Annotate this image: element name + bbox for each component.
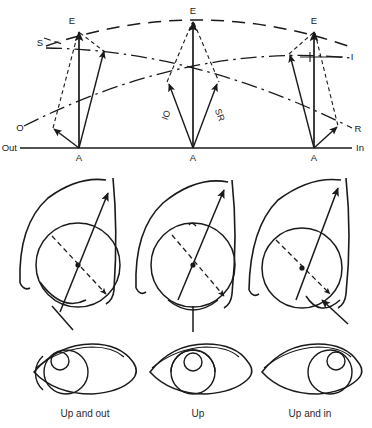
globe-up <box>136 180 235 332</box>
io-component-vector <box>54 129 79 148</box>
adduction-group: E I R A <box>289 15 362 163</box>
globe-up-and-out <box>20 178 120 330</box>
label-S: S <box>37 37 43 48</box>
eye-muscle-action-figure: E S O A E IO SR A <box>0 0 372 428</box>
pupil-left <box>51 352 69 370</box>
orbit-apex-mid <box>136 288 146 293</box>
abduction-group: E S O A <box>16 15 105 163</box>
label-E-right: E <box>311 15 317 26</box>
label-A-left: A <box>76 152 83 163</box>
orbit-apex-left <box>20 283 30 289</box>
label-E-left: E <box>69 15 75 26</box>
label-In: In <box>356 142 364 153</box>
visual-axis-dashed-right <box>276 240 330 294</box>
label-R: R <box>355 123 362 134</box>
label-E-mid: E <box>190 5 196 16</box>
caption-up-and-in: Up and in <box>289 408 332 419</box>
muscle-action-arrow-mid <box>178 190 224 300</box>
sr-component-vector-right <box>314 127 337 148</box>
eye-panel-row: Up and out Up Up and in <box>34 344 362 419</box>
label-A-right: A <box>311 152 318 163</box>
muscle-action-arrow-left <box>60 193 108 312</box>
label-IO: IO <box>160 109 173 121</box>
globe-up-and-in <box>249 178 349 324</box>
label-A-mid: A <box>190 152 197 163</box>
label-I: I <box>351 51 354 62</box>
pupil-mid <box>184 353 202 371</box>
caption-up: Up <box>192 408 205 419</box>
parallelogram-side-a <box>53 33 78 128</box>
iris-circle-right <box>308 350 352 394</box>
parallelogram-side-f <box>315 33 338 126</box>
orbit-wall-outer-mid <box>136 181 228 288</box>
intorsion-arc <box>24 55 350 126</box>
muscle-action-arrow-right <box>296 188 338 300</box>
io-component-vector-mid <box>169 84 193 148</box>
globe-diagram-row <box>20 178 349 332</box>
orbit-wall-inner-right <box>338 178 349 308</box>
eye-up-and-in <box>262 344 362 394</box>
label-Out: Out <box>2 142 18 153</box>
iris-circle-left <box>44 350 88 394</box>
iris-left <box>35 356 43 390</box>
caption-up-and-out: Up and out <box>61 408 110 419</box>
parallelogram-side-d <box>194 23 219 82</box>
eye-up-and-out <box>34 344 136 394</box>
visual-axis-dashed-mid <box>172 235 224 296</box>
label-SR: SR <box>213 107 227 123</box>
muscle-origin-line-left <box>52 306 73 330</box>
sr-component-vector-mid <box>193 84 217 148</box>
figure-svg: E S O A E IO SR A <box>0 0 372 428</box>
primary-position-group: E IO SR A <box>160 5 227 163</box>
eye-up <box>150 344 252 394</box>
pupil-right <box>327 352 345 370</box>
parallelogram-side-e <box>289 33 313 54</box>
orbit-apex-right <box>249 290 259 295</box>
parallelogram-side-c <box>167 23 192 82</box>
vector-diagram: E S O A E IO SR A <box>2 5 364 163</box>
io-component-vector-right <box>290 55 314 148</box>
label-O: O <box>16 122 23 133</box>
